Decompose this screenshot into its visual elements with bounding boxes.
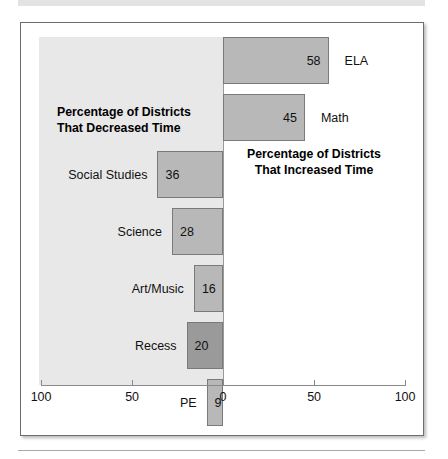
axis-tick-1 xyxy=(132,380,133,386)
bar-value-social-studies: 36 xyxy=(165,169,179,182)
category-label-art-music: Art/Music xyxy=(132,283,184,296)
bar-value-science: 28 xyxy=(180,226,194,239)
category-label-science: Science xyxy=(118,226,162,239)
category-label-math: Math xyxy=(321,112,349,125)
page-top-band xyxy=(18,0,425,6)
zero-axis-line xyxy=(223,37,224,385)
annotation-decreased-time: Percentage of Districts That Decreased T… xyxy=(57,105,217,136)
axis-tick-0 xyxy=(41,380,42,386)
figure-frame: 58ELA45Math36Social Studies28Science16Ar… xyxy=(20,22,424,436)
axis-tick-label-0: 100 xyxy=(11,390,71,404)
category-label-recess: Recess xyxy=(135,340,177,353)
bar-value-recess: 20 xyxy=(195,340,209,353)
plot-area: 58ELA45Math36Social Studies28Science16Ar… xyxy=(21,23,423,435)
axis-tick-label-4: 100 xyxy=(375,390,435,404)
axis-tick-label-2: 0 xyxy=(193,390,253,404)
axis-tick-4 xyxy=(405,380,406,386)
axis-tick-2 xyxy=(223,380,224,386)
category-label-ela: ELA xyxy=(345,55,369,68)
axis-tick-label-1: 50 xyxy=(102,390,162,404)
axis-tick-3 xyxy=(314,380,315,386)
annotation-increased-time: Percentage of Districts That Increased T… xyxy=(229,147,399,178)
bar-value-math: 45 xyxy=(283,112,297,125)
page-bottom-rule xyxy=(18,450,425,451)
axis-tick-label-3: 50 xyxy=(284,390,344,404)
bar-value-ela: 58 xyxy=(307,55,321,68)
category-label-social-studies: Social Studies xyxy=(68,169,147,182)
bar-value-art-music: 16 xyxy=(202,283,216,296)
